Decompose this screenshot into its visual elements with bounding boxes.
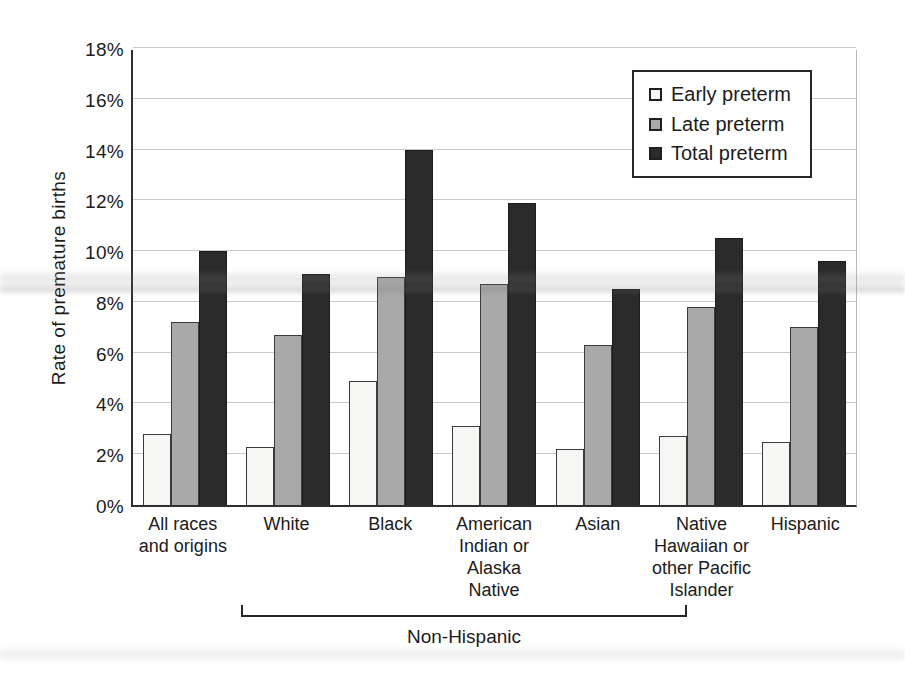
legend-label-late-preterm: Late preterm bbox=[671, 113, 784, 136]
category-label: Hispanic bbox=[753, 514, 857, 602]
bar-group bbox=[443, 50, 546, 505]
legend-item-late-preterm: Late preterm bbox=[649, 113, 806, 136]
bar-group bbox=[340, 50, 443, 505]
category-label: Black bbox=[338, 514, 442, 602]
bar-total-preterm bbox=[715, 238, 743, 505]
bar-group bbox=[133, 50, 236, 505]
category-label: White bbox=[235, 514, 339, 602]
category-labels: All races and originsWhiteBlackAmerican … bbox=[131, 514, 857, 602]
bar-total-preterm bbox=[302, 274, 330, 505]
bar-early-preterm bbox=[452, 426, 480, 505]
y-tick-label: 16% bbox=[85, 90, 124, 112]
bar-total-preterm bbox=[612, 289, 640, 505]
category-label: Native Hawaiian or other Pacific Islande… bbox=[650, 514, 754, 602]
category-label: Asian bbox=[546, 514, 650, 602]
legend-label-total-preterm: Total preterm bbox=[671, 142, 788, 165]
bar-early-preterm bbox=[659, 436, 687, 505]
figure-root: Rate of premature births 0%2%4%6%8%10%12… bbox=[0, 0, 905, 682]
bar-total-preterm bbox=[199, 251, 227, 505]
early-preterm-swatch-icon bbox=[649, 88, 662, 101]
bar-late-preterm bbox=[687, 307, 715, 505]
bar-early-preterm bbox=[762, 442, 790, 505]
legend-item-early-preterm: Early preterm bbox=[649, 83, 806, 106]
y-axis-ticks: 0%2%4%6%8%10%12%14%16%18% bbox=[0, 50, 124, 507]
late-preterm-swatch-icon bbox=[649, 118, 662, 131]
y-tick-label: 14% bbox=[85, 141, 124, 163]
bar-late-preterm bbox=[171, 322, 199, 505]
bar-late-preterm bbox=[274, 335, 302, 505]
non-hispanic-label: Non-Hispanic bbox=[241, 626, 687, 648]
bar-early-preterm bbox=[143, 434, 171, 505]
bar-total-preterm bbox=[508, 203, 536, 505]
total-preterm-swatch-icon bbox=[649, 147, 662, 160]
bar-late-preterm bbox=[377, 277, 405, 506]
category-label: All races and origins bbox=[131, 514, 235, 602]
y-tick-label: 0% bbox=[96, 496, 124, 518]
non-hispanic-bracket bbox=[241, 605, 687, 617]
y-tick-label: 12% bbox=[85, 191, 124, 213]
bar-early-preterm bbox=[556, 449, 584, 505]
bar-group bbox=[236, 50, 339, 505]
gridline bbox=[133, 47, 856, 48]
bar-early-preterm bbox=[349, 381, 377, 505]
scan-artifact bbox=[0, 650, 905, 659]
legend: Early preterm Late preterm Total preterm bbox=[632, 70, 812, 178]
y-tick-label: 8% bbox=[96, 293, 124, 315]
y-tick-label: 4% bbox=[96, 394, 124, 416]
bar-early-preterm bbox=[246, 447, 274, 505]
legend-item-total-preterm: Total preterm bbox=[649, 142, 806, 165]
category-label: American Indian or Alaska Native bbox=[442, 514, 546, 602]
y-tick-label: 18% bbox=[85, 39, 124, 61]
bar-late-preterm bbox=[790, 327, 818, 505]
bar-total-preterm bbox=[405, 150, 433, 505]
bar-total-preterm bbox=[818, 261, 846, 505]
y-tick-label: 2% bbox=[96, 445, 124, 467]
legend-label-early-preterm: Early preterm bbox=[671, 83, 791, 106]
bar-late-preterm bbox=[480, 284, 508, 505]
y-tick-label: 10% bbox=[85, 242, 124, 264]
y-tick-label: 6% bbox=[96, 344, 124, 366]
bar-late-preterm bbox=[584, 345, 612, 505]
